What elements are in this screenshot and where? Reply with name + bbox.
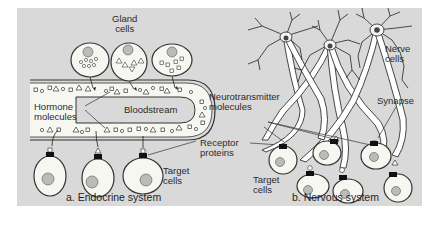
label-receptor-line-2: proteins — [200, 148, 239, 158]
caption-endocrine-system: a. Endocrine system — [66, 191, 161, 203]
endocrine-vs-nervous-figure: Gland cells Hormone molecules Bloodstrea… — [0, 0, 443, 228]
label-neurotransmitter-line-2: molecules — [209, 102, 280, 112]
label-target-b-line-2: cells — [253, 185, 279, 195]
label-nerve-line-2: cells — [385, 54, 410, 64]
label-synapse: Synapse — [377, 96, 414, 106]
label-target-a-line-2: cells — [163, 176, 189, 186]
label-nerve-cells: Nerve cells — [385, 44, 410, 64]
label-gland-cells: Gland cells — [112, 14, 137, 34]
label-receptor-proteins: Receptor proteins — [200, 138, 239, 158]
label-target-cells-a: Target cells — [163, 166, 189, 186]
label-neurotransmitter-molecules: Neurotransmitter molecules — [209, 92, 280, 112]
label-hormone-line-2: molecules — [34, 112, 77, 122]
label-hormone-molecules: Hormone molecules — [34, 102, 77, 122]
label-target-cells-b: Target cells — [253, 175, 279, 195]
label-bloodstream: Bloodstream — [124, 105, 177, 115]
caption-nervous-system: b. Nervous system — [292, 191, 379, 203]
label-gland-line-2: cells — [112, 24, 137, 34]
